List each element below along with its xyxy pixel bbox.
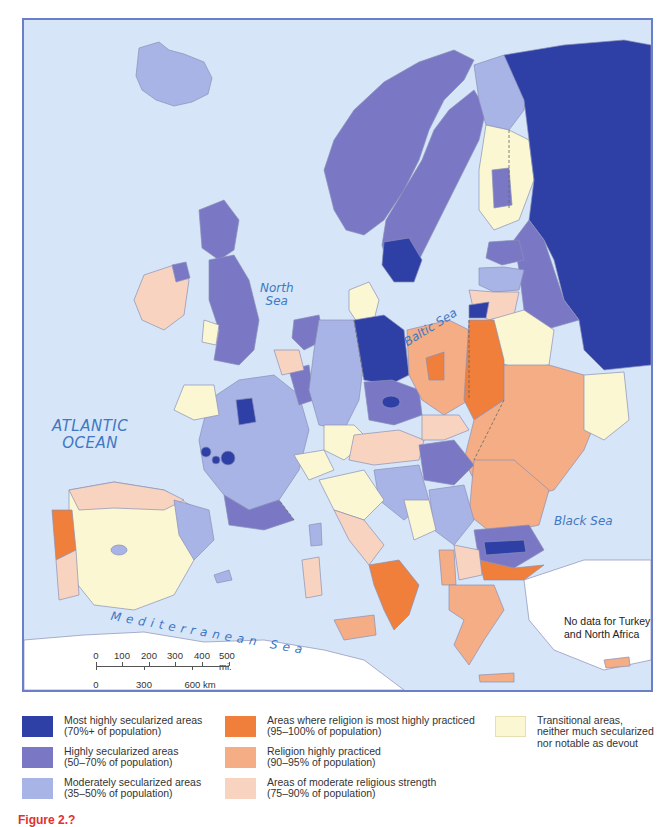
black-sea-label: Black Sea [554, 515, 613, 528]
region-south-italy [369, 560, 419, 630]
region-austria [349, 430, 424, 465]
region-corsica [309, 523, 322, 546]
scale-mi-0: 0 [93, 650, 98, 661]
scale-mi-100: 100 [114, 650, 130, 661]
europe-map [24, 20, 651, 690]
scale-km-0: 0 [93, 679, 98, 690]
region-spain-north [69, 482, 184, 510]
scale-tick [96, 662, 97, 670]
legend-sublabel: (70%+ of population) [64, 726, 202, 737]
legend-swatch [225, 778, 256, 799]
region-ukraine-east [584, 372, 629, 440]
region-macedonia [454, 545, 482, 580]
region-wales [202, 320, 219, 345]
region-scotland [199, 200, 239, 260]
region-north-italy [319, 470, 384, 520]
legend-sublabel: (95–100% of population) [267, 726, 475, 737]
legend-sublabel-2: nor notable as devout [537, 738, 654, 749]
region-crete [479, 673, 514, 682]
region-england [209, 255, 259, 365]
no-data-note: No data for Turkey and North Africa [564, 615, 653, 640]
legend-sublabel: (35–50% of population) [64, 788, 201, 799]
scale-tick [175, 662, 176, 666]
scale-mi-200: 200 [141, 650, 157, 661]
legend-swatch [22, 778, 53, 799]
legend-item-moderately-secularized: Moderately secularized areas(35–50% of p… [22, 777, 201, 800]
region-switzerland [294, 450, 334, 480]
legend-swatch [22, 747, 53, 768]
scale-bar: 0 100 200 300 400 500 mi. 0 300 600 km [64, 650, 264, 692]
region-bulgaria-core [484, 540, 526, 555]
atlantic-ocean-label: ATLANTIC OCEAN [52, 418, 128, 451]
region-germany-west [309, 320, 364, 430]
region-kaliningrad [469, 302, 489, 318]
scale-bar-line [96, 666, 229, 667]
scale-km-600: 600 km [184, 679, 215, 690]
no-data-line2: and North Africa [564, 628, 653, 641]
scale-mi-300: 300 [167, 650, 183, 661]
legend-sublabel: (75–90% of population) [267, 788, 436, 799]
scale-km-300: 300 [136, 679, 152, 690]
region-bohemia-core [382, 396, 400, 408]
scale-mi-500: 500 mi. [219, 650, 249, 672]
region-albania [439, 550, 456, 585]
legend-item-most-highly-secularized: Most highly secularized areas(70%+ of po… [22, 715, 202, 738]
legend-item-highly-secularized: Highly secularized areas(50–70% of popul… [22, 746, 178, 769]
legend-swatch [225, 716, 256, 737]
scale-tick [192, 666, 193, 670]
region-madrid [111, 545, 127, 555]
region-latvia [479, 267, 524, 292]
region-sicily [334, 615, 376, 640]
legend-sublabel: (50–70% of population) [64, 757, 178, 768]
region-hungary [419, 440, 474, 485]
figure-caption: Figure 2.? [18, 813, 75, 827]
legend-swatch [495, 716, 526, 737]
region-estonia [486, 240, 524, 265]
region-west-france-1 [201, 447, 211, 457]
atlantic-label-line1: ATLANTIC [52, 418, 128, 435]
region-slovakia [422, 415, 469, 440]
region-west-france-3 [221, 451, 235, 465]
region-central-italy [334, 510, 384, 565]
north-sea-line2: Sea [260, 295, 294, 308]
region-belgium [274, 350, 304, 375]
region-balearics [214, 570, 232, 583]
legend-sublabel: (90–95% of population) [267, 757, 381, 768]
legend-item-religion-most-practiced: Areas where religion is most highly prac… [225, 715, 475, 738]
legend-sublabel: neither much secularized [537, 726, 654, 737]
region-sardinia [302, 557, 322, 598]
region-west-france-2 [212, 456, 220, 464]
no-data-line1: No data for Turkey [564, 615, 653, 628]
legend-item-religion-highly-practiced: Religion highly practiced(90–95% of popu… [225, 746, 381, 769]
region-iceland [136, 42, 212, 106]
scale-tick [144, 666, 145, 670]
map-legend: Most highly secularized areas(70%+ of po… [0, 705, 668, 805]
scale-tick [149, 662, 150, 666]
scale-tick [122, 662, 123, 666]
scale-tick [229, 662, 230, 666]
region-paris-basin [236, 398, 256, 425]
legend-item-moderate-religious: Areas of moderate religious strength(75–… [225, 777, 436, 800]
region-greece [449, 585, 504, 665]
scale-mi-400: 400 [194, 650, 210, 661]
map-frame: ATLANTIC OCEAN North Sea Baltic Sea Blac… [22, 18, 653, 692]
legend-swatch [225, 747, 256, 768]
scale-tick [202, 662, 203, 666]
legend-item-transitional: Transitional areas,neither much seculari… [495, 715, 654, 749]
legend-swatch [22, 716, 53, 737]
region-brittany [174, 385, 219, 420]
north-sea-label: North Sea [260, 282, 294, 308]
region-serbia [429, 485, 474, 545]
atlantic-label-line2: OCEAN [52, 435, 128, 452]
